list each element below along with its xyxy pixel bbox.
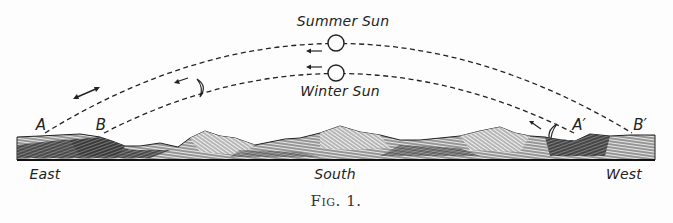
point-b-label: B — [96, 116, 106, 134]
left-arrow-icon — [174, 78, 188, 84]
east-label: East — [29, 166, 60, 182]
left-arrow-icon — [306, 49, 322, 54]
point-a-label: A — [36, 116, 46, 134]
point-a-prime-label: A′ — [572, 116, 586, 134]
sun-path-diagram — [0, 0, 673, 223]
winter-sun-icon — [328, 65, 344, 81]
west-label: West — [606, 166, 642, 182]
summer-sun-label: Summer Sun — [297, 13, 390, 29]
left-arrow-icon — [529, 121, 541, 129]
summer-sun-icon — [328, 35, 344, 51]
south-label: South — [314, 166, 356, 182]
point-b-prime-label: B′ — [633, 116, 647, 134]
figure-caption: Fig. 1. — [311, 192, 362, 210]
winter-sun-label: Winter Sun — [300, 83, 380, 99]
horizon-landscape — [17, 126, 655, 160]
double-arrow-icon — [73, 87, 100, 99]
left-arrow-icon — [306, 65, 322, 70]
